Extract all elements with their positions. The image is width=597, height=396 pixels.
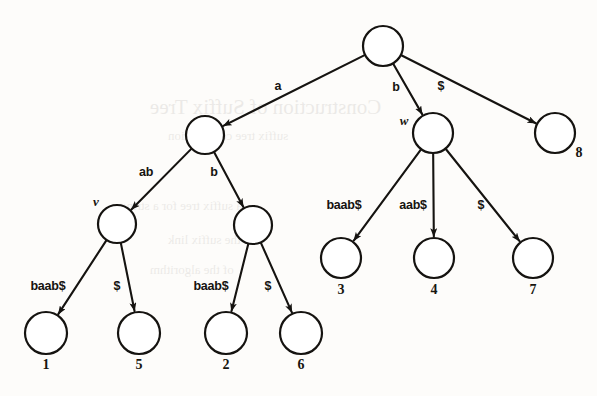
tree-internal-node bbox=[413, 113, 453, 153]
tree-edge bbox=[223, 55, 364, 126]
leaf-number: 1 bbox=[43, 357, 50, 373]
tree-leaf-node bbox=[414, 238, 454, 278]
tree-leaf-node bbox=[118, 312, 160, 354]
tree-internal-node bbox=[363, 26, 403, 66]
edge-label: b bbox=[210, 165, 217, 179]
suffix-tree-figure: Construction of Suffix Treesuffix tree c… bbox=[0, 0, 597, 396]
edge-label: $ bbox=[438, 79, 445, 93]
edge-label: baab$ bbox=[30, 279, 65, 293]
edge-label: $ bbox=[114, 279, 121, 293]
tree-leaf-node bbox=[205, 312, 247, 354]
leaf-number: 7 bbox=[530, 282, 537, 298]
tree-leaf-node bbox=[321, 238, 361, 278]
tree-edge bbox=[231, 244, 248, 311]
leaf-number: 6 bbox=[298, 357, 305, 373]
edge-label: a bbox=[275, 79, 282, 93]
edge-label: b bbox=[392, 80, 399, 94]
leaf-number: 8 bbox=[576, 145, 583, 161]
edge-label: aab$ bbox=[399, 198, 427, 212]
tree-leaf-node bbox=[535, 113, 575, 153]
tree-leaf-node bbox=[280, 312, 322, 354]
leaf-number: 5 bbox=[136, 357, 143, 373]
tree-internal-node bbox=[234, 206, 272, 244]
edge-label: $ bbox=[265, 279, 272, 293]
edge-label: baab$ bbox=[326, 198, 361, 212]
tree-edge bbox=[58, 240, 106, 314]
leaf-number: 4 bbox=[431, 282, 438, 298]
tree-edge bbox=[354, 150, 421, 241]
edge-label: $ bbox=[478, 198, 485, 212]
tree-leaf-node bbox=[25, 312, 67, 354]
edge-label: ab bbox=[139, 165, 153, 179]
tree-edge bbox=[131, 149, 191, 210]
node-name-label: w bbox=[400, 113, 409, 129]
node-name-label: v bbox=[93, 194, 99, 210]
tree-internal-node bbox=[186, 116, 224, 154]
tree-edge bbox=[433, 153, 434, 236]
node-layer bbox=[25, 26, 575, 354]
tree-leaf-node bbox=[513, 238, 553, 278]
leaf-number: 3 bbox=[338, 282, 345, 298]
edge-label: baab$ bbox=[193, 279, 228, 293]
tree-edge bbox=[261, 243, 292, 313]
tree-edge bbox=[446, 149, 520, 241]
tree-edge bbox=[121, 243, 135, 311]
leaf-number: 2 bbox=[223, 357, 230, 373]
tree-internal-node bbox=[98, 205, 136, 243]
edge-layer bbox=[58, 55, 536, 314]
suffix-tree-graph bbox=[0, 0, 597, 396]
tree-edge bbox=[214, 152, 243, 207]
